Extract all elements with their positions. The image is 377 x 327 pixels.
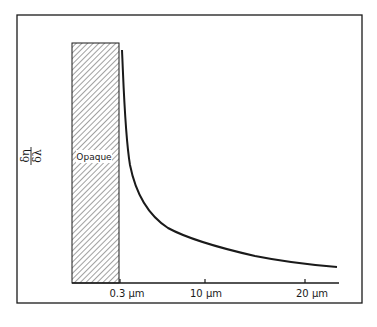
x-tick-label-2: 20 μm (296, 288, 328, 299)
figure-frame (17, 15, 362, 303)
figure-canvas: Opaque 0.3 μm 10 μm 20 μm δη δλ (0, 0, 377, 327)
y-axis-label: δη δλ (19, 147, 44, 165)
y-label-denominator: δλ (31, 149, 44, 163)
curve-series (122, 50, 337, 267)
x-tick-label-0: 0.3 μm (109, 288, 144, 299)
opaque-label: Opaque (76, 152, 112, 162)
x-tick-label-1: 10 μm (190, 288, 222, 299)
